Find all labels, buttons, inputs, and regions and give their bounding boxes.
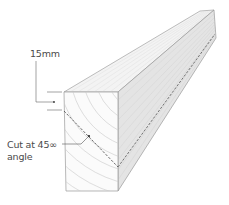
beam-diagram [0,0,229,205]
cut-angle-label-line2: angle [7,151,32,162]
thickness-leader [36,61,54,102]
cut-angle-label: Cut at 45∞ [7,139,57,150]
thickness-dimension [36,61,62,110]
thickness-label: 15mm [30,48,60,59]
